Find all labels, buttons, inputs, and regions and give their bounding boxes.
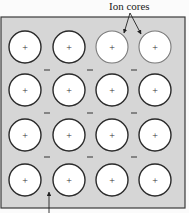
ion-core: + [53,119,85,151]
plus-charge-icon: + [22,175,28,186]
ion-core: + [53,74,85,106]
ion-core: + [9,164,41,196]
ion-core: + [96,119,128,151]
plus-charge-icon: + [109,130,115,141]
ion-core: + [139,31,171,63]
ion-core: + [9,74,41,106]
ion-core: + [9,119,41,151]
plus-charge-icon: + [66,130,72,141]
plus-charge-icon: + [152,175,158,186]
plus-charge-icon: + [66,42,72,53]
ion-core: + [53,164,85,196]
plus-charge-icon: + [66,175,72,186]
plus-charge-icon: + [109,42,115,53]
ion-core: + [139,119,171,151]
metallic-bonding-diagram: ++++++++++++++++ Ion cores [0,0,189,213]
plus-charge-icon: + [109,175,115,186]
ion-core: + [96,164,128,196]
ion-core: + [139,164,171,196]
plus-charge-icon: + [22,130,28,141]
ion-core: + [9,31,41,63]
plus-charge-icon: + [22,42,28,53]
plus-charge-icon: + [152,42,158,53]
ion-core: + [53,31,85,63]
plus-charge-icon: + [152,130,158,141]
ion-core: + [96,31,128,63]
plus-charge-icon: + [109,85,115,96]
plus-charge-icon: + [152,85,158,96]
ion-cores-label: Ion cores [109,0,150,12]
diagram-canvas: ++++++++++++++++ [0,0,189,213]
plus-charge-icon: + [66,85,72,96]
ion-core: + [139,74,171,106]
ion-core: + [96,74,128,106]
plus-charge-icon: + [22,85,28,96]
